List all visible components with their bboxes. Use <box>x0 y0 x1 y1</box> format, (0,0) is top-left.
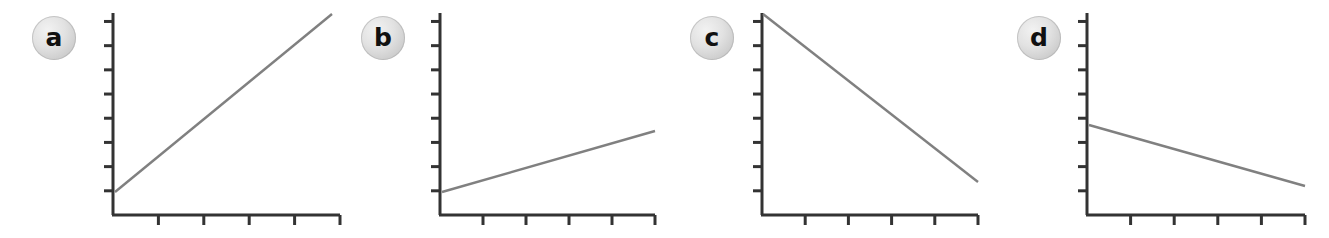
panel-d-plot <box>0 0 1329 238</box>
axes-group-d <box>1078 13 1305 225</box>
figure-root: a b c d <box>0 0 1329 238</box>
panel-label-d-badge: d <box>1017 16 1061 60</box>
panel-label-d-text: d <box>1030 25 1048 50</box>
trend-line-d <box>1089 125 1305 186</box>
